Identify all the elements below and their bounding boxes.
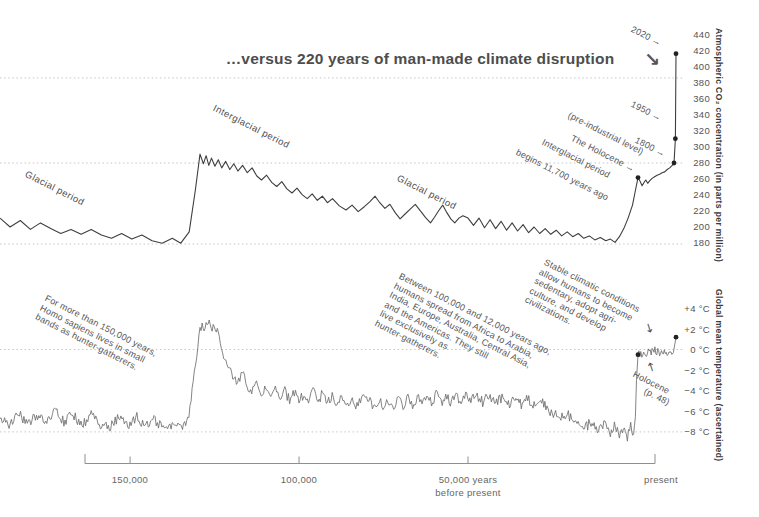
temp-tick: −6 °C: [664, 406, 710, 418]
temp-axis-ticks: +4 °C +2 °C 0 °C −2 °C −4 °C −6 °C −8 °C: [664, 303, 710, 438]
chart-canvas: [0, 0, 759, 517]
chart-title: …versus 220 years of man-made climate di…: [170, 50, 670, 68]
co2-marker-dot: [636, 175, 641, 180]
co2-tick: 320: [672, 125, 710, 137]
x-tick-150000: 150,000: [100, 474, 160, 485]
temp-tick: −8 °C: [664, 426, 710, 438]
x-axis-unit-label: before present: [433, 487, 503, 498]
temp-tick: 0 °C: [664, 344, 710, 356]
co2-tick: 360: [672, 93, 710, 105]
temp-marker-dot: [636, 352, 641, 357]
title-arrow-icon: ↘: [644, 48, 660, 71]
co2-axis-title: Atmospheric CO₂ concentration (in parts …: [714, 28, 724, 262]
co2-tick: 200: [672, 221, 710, 233]
co2-tick: 280: [672, 157, 710, 169]
co2-tick: 240: [672, 189, 710, 201]
temp-axis-title: Global mean temperature (ascertained): [714, 289, 724, 462]
climate-infographic: …versus 220 years of man-made climate di…: [0, 0, 759, 517]
co2-tick: 420: [672, 45, 710, 57]
co2-tick: 400: [672, 61, 710, 73]
co2-tick: 300: [672, 141, 710, 153]
temp-tick: +4 °C: [664, 303, 710, 315]
temp-tick: +2 °C: [664, 324, 710, 336]
co2-tick: 220: [672, 205, 710, 217]
co2-tick: 380: [672, 77, 710, 89]
temp-tick: −2 °C: [664, 365, 710, 377]
x-tick-100000: 100,000: [269, 474, 329, 485]
co2-axis-ticks: 440 420 400 380 360 340 320 300 280 260 …: [672, 29, 710, 249]
x-axis-bracket: [85, 454, 655, 464]
x-tick-present: present: [633, 474, 689, 485]
co2-tick: 180: [672, 237, 710, 249]
co2-tick: 440: [672, 29, 710, 41]
x-tick-50000: 50,000 years: [433, 474, 503, 485]
co2-line: [0, 54, 676, 244]
co2-tick: 340: [672, 109, 710, 121]
co2-tick: 260: [672, 173, 710, 185]
